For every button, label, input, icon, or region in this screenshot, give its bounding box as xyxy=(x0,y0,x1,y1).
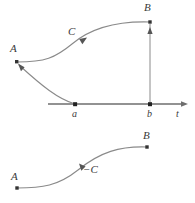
label-curve-c: C xyxy=(68,26,75,37)
label-point-a-upper: A xyxy=(10,43,17,54)
point-A-upper xyxy=(15,60,18,63)
bottom-panel-group xyxy=(15,145,148,189)
vertical-segment-arrowhead xyxy=(147,27,152,34)
point-B-upper xyxy=(148,20,151,23)
point-B-lower xyxy=(145,145,148,148)
label-tick-a: a xyxy=(72,109,77,119)
curve-c-direction-arrowhead xyxy=(79,38,87,45)
label-point-b-upper: B xyxy=(144,2,151,13)
label-curve-minus-c: −C xyxy=(83,164,98,175)
t-axis-arrowhead xyxy=(181,101,188,107)
top-panel-group xyxy=(15,20,188,107)
label-point-a-lower: A xyxy=(11,171,18,182)
label-axis-t: t xyxy=(176,109,179,119)
label-tick-b: b xyxy=(147,109,152,119)
point-tick-a xyxy=(73,102,77,106)
mapping-curve-arrowhead xyxy=(18,64,25,72)
point-tick-b xyxy=(148,102,152,106)
label-point-b-lower: B xyxy=(143,130,150,141)
figure-container: A C B a b t A −C B xyxy=(0,0,195,203)
mapping-curve-a-path xyxy=(19,65,75,104)
point-A-lower xyxy=(15,186,18,189)
